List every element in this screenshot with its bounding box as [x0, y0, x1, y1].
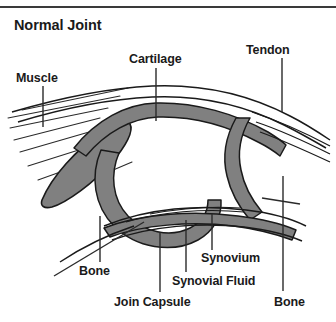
- leader-bone-right-tick: [262, 198, 300, 204]
- label-synovium: Synovium: [201, 252, 260, 265]
- label-tendon: Tendon: [246, 44, 290, 57]
- normal-joint-figure: Normal Joint: [0, 0, 336, 322]
- label-bone-left: Bone: [79, 265, 110, 278]
- label-cartilage: Cartilage: [129, 53, 182, 66]
- label-join-capsule: Join Capsule: [114, 296, 191, 309]
- label-synovial-fluid: Synovial Fluid: [172, 275, 255, 288]
- label-bone-right: Bone: [274, 296, 305, 309]
- label-muscle: Muscle: [16, 72, 58, 85]
